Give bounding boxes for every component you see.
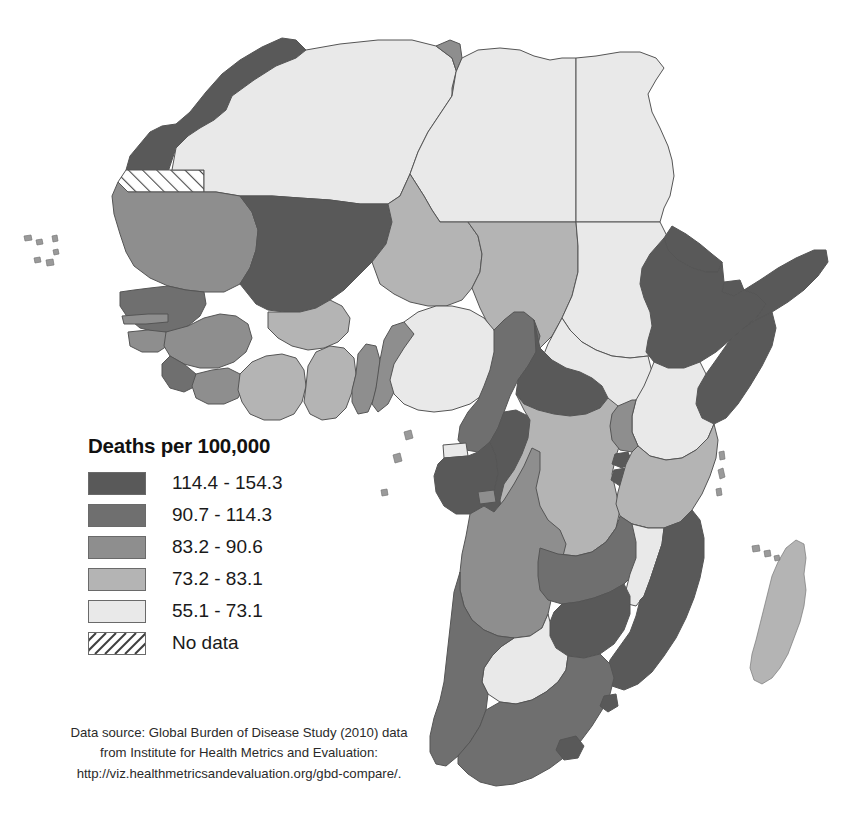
- citation-line-1: Data source: Global Burden of Disease St…: [30, 723, 448, 743]
- legend-swatch-5: [88, 600, 146, 623]
- country-liberia: [192, 368, 244, 404]
- legend-label-3: 83.2 - 90.6: [172, 536, 263, 558]
- country-mali: [240, 196, 392, 312]
- hatch-pattern-icon: [89, 633, 145, 654]
- legend-swatch-1: [88, 472, 146, 495]
- country-cote-divoire: [238, 354, 306, 420]
- island-cape-verde-5: [34, 257, 41, 263]
- island-cape-verde-3: [52, 235, 58, 242]
- citation-line-2: from Institute for Health Metrics and Ev…: [30, 743, 448, 763]
- country-layer: [24, 38, 828, 786]
- island-pemba: [719, 451, 725, 460]
- legend-swatch-2: [88, 504, 146, 527]
- legend-row-nodata: No data: [88, 627, 388, 659]
- island-sao-tome: [393, 453, 402, 463]
- legend-swatch-3: [88, 536, 146, 559]
- island-cape-verde-4: [53, 249, 59, 255]
- legend-title: Deaths per 100,000: [88, 434, 388, 458]
- citation-line-3: http://viz.healthmetricsandevaluation.or…: [30, 764, 448, 784]
- legend-row-1: 114.4 - 154.3: [88, 467, 388, 499]
- legend-swatch-nodata: [88, 632, 146, 655]
- country-egypt: [576, 52, 674, 222]
- legend-row-5: 55.1 - 73.1: [88, 595, 388, 627]
- island-cape-verde-2: [36, 239, 43, 245]
- legend-label-5: 55.1 - 73.1: [172, 600, 263, 622]
- legend-label-nodata: No data: [172, 632, 239, 654]
- country-mauritania: [112, 182, 258, 292]
- island-bioko: [404, 430, 413, 440]
- country-angola-cabinda: [478, 490, 496, 504]
- choropleth-figure: Deaths per 100,000 114.4 - 154.3 90.7 - …: [0, 0, 857, 823]
- country-gambia: [122, 314, 168, 324]
- island-comoros-3: [774, 555, 780, 561]
- island-cape-verde-6: [46, 259, 54, 266]
- country-ghana: [304, 346, 356, 420]
- island-comoros-2: [764, 550, 771, 557]
- data-source-citation: Data source: Global Burden of Disease St…: [30, 723, 448, 784]
- island-mafia: [716, 488, 722, 496]
- island-comoros-1: [752, 545, 760, 552]
- legend-row-4: 73.2 - 83.1: [88, 563, 388, 595]
- legend-label-4: 73.2 - 83.1: [172, 568, 263, 590]
- island-cape-verde-1: [24, 235, 32, 241]
- africa-map: [0, 0, 857, 823]
- country-western-sahara: [118, 170, 204, 192]
- legend-label-1: 114.4 - 154.3: [172, 472, 283, 494]
- map-legend: Deaths per 100,000 114.4 - 154.3 90.7 - …: [88, 434, 388, 659]
- island-madagascar: [750, 540, 806, 684]
- country-guinea-bissau: [128, 330, 170, 352]
- country-equatorial-guinea: [443, 443, 468, 458]
- legend-swatch-4: [88, 568, 146, 591]
- legend-row-2: 90.7 - 114.3: [88, 499, 388, 531]
- island-zanzibar: [718, 468, 725, 479]
- legend-row-3: 83.2 - 90.6: [88, 531, 388, 563]
- legend-label-2: 90.7 - 114.3: [172, 504, 272, 526]
